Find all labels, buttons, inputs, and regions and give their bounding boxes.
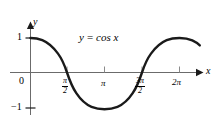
equation-operator: = xyxy=(87,31,93,43)
equation-annotation: y=cos x xyxy=(79,32,118,43)
x-axis-label: x xyxy=(206,66,210,76)
y-tick-label-neg1: −1 xyxy=(11,102,22,112)
fraction-pi-over-2: π 2 xyxy=(62,77,68,95)
equation-rhs: cos x xyxy=(96,31,118,43)
x-tick-label-pi: π xyxy=(101,79,106,88)
y-axis xyxy=(27,22,34,116)
origin-label: 0 xyxy=(19,76,24,86)
x-axis xyxy=(10,69,204,76)
cosine-graph-figure: y x 0 1 −1 π 2 π 3π 2 2π y=cos x xyxy=(0,0,218,128)
cosine-curve xyxy=(31,38,200,109)
fraction-denominator: 2 xyxy=(135,87,145,95)
x-tick-label-pi-over-2: π 2 xyxy=(62,77,68,95)
x-tick-label-2pi: 2π xyxy=(172,78,181,87)
equation-lhs: y xyxy=(79,31,84,43)
fraction-3pi-over-2: 3π 2 xyxy=(135,77,145,95)
y-tick-label-1: 1 xyxy=(17,32,22,42)
x-axis-ticks xyxy=(67,67,180,73)
y-axis-label: y xyxy=(33,17,37,27)
fraction-denominator: 2 xyxy=(62,87,68,95)
x-tick-label-3pi-over-2: 3π 2 xyxy=(135,77,145,95)
